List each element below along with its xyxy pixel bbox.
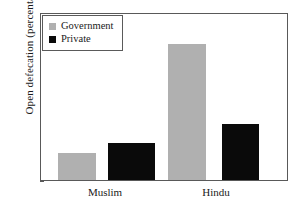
y-tick-mark-0 [40,181,44,182]
legend: Government Private [42,15,123,51]
private-swatch-icon [49,36,56,43]
x-label-hindu: Hindu [172,186,260,198]
legend-item-private: Private [49,33,114,46]
legend-item-government: Government [49,20,114,33]
bar-muslim-private [108,143,155,180]
government-swatch-icon [49,23,56,30]
bar-chart: Open defecation (percentage) 50 40 30 20… [0,0,302,214]
bar-muslim-government [58,153,96,180]
legend-label-government: Government [61,21,114,32]
y-axis-title: Open defecation (percentage) [23,0,35,133]
legend-label-private: Private [61,34,91,45]
x-label-muslim: Muslim [58,186,152,198]
bar-hindu-government [168,44,206,180]
bar-hindu-private [222,124,259,180]
